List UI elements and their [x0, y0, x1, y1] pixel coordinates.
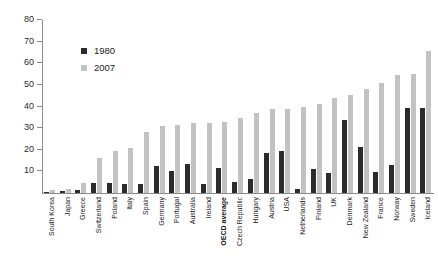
x-axis-label: Germany [158, 197, 166, 226]
bar-2007 [254, 113, 259, 193]
x-axis-label: Netherlands [299, 197, 307, 235]
bar-1980 [311, 169, 316, 193]
x-axis-label: Japan [64, 197, 72, 216]
x-axis-label: Spain [142, 197, 150, 215]
bar-2007 [411, 74, 416, 193]
bar-1980 [420, 108, 425, 193]
y-tick-label: 40 [24, 100, 34, 113]
bar-1980 [91, 183, 96, 193]
x-axis-label: USA [283, 197, 291, 211]
bar-2007 [332, 98, 337, 193]
bar-2007 [160, 126, 165, 193]
x-axis-label: Portugal [173, 197, 181, 223]
bar-chart: 1020304050607080 1980 2007 South KoreaJa… [0, 0, 438, 262]
y-tick-label: 60 [24, 56, 34, 69]
bar-2007 [270, 109, 275, 193]
x-axis-label: Greece [79, 197, 87, 220]
x-axis-label: OECD average [220, 197, 228, 246]
bar-2007 [191, 123, 196, 193]
bar-2007 [317, 104, 322, 193]
bar-1980 [248, 179, 253, 193]
y-tick-label: 50 [24, 78, 34, 91]
bar-1980 [295, 189, 300, 193]
bar-2007 [66, 189, 71, 193]
bar-1980 [405, 108, 410, 193]
x-axis-label: New Zealand [362, 197, 370, 238]
x-axis-label: Switzerland [95, 197, 103, 233]
bar-2007 [364, 89, 369, 193]
bar-1980 [326, 173, 331, 193]
bar-2007 [348, 95, 353, 193]
bar-2007 [426, 51, 431, 193]
bar-2007 [113, 151, 118, 193]
bar-2007 [285, 109, 290, 193]
bar-2007 [395, 75, 400, 193]
bar-2007 [301, 107, 306, 193]
x-axis-label: Poland [111, 197, 119, 219]
x-axis-label: Denmark [346, 197, 354, 225]
x-axis-label: Australia [189, 197, 197, 224]
bar-1980 [44, 192, 49, 193]
bar-2007 [97, 158, 102, 193]
x-axis-label: Czech Republic [236, 197, 244, 246]
x-axis-line [42, 193, 434, 194]
bar-1980 [264, 153, 269, 193]
bar-1980 [75, 190, 80, 193]
bar-1980 [373, 172, 378, 193]
bar-1980 [169, 171, 174, 193]
bar-1980 [279, 151, 284, 193]
bar-2007 [175, 125, 180, 193]
bar-2007 [207, 123, 212, 193]
bar-1980 [389, 165, 394, 193]
bar-1980 [122, 184, 127, 194]
x-axis-label: Norway [393, 197, 401, 221]
bar-2007 [379, 83, 384, 193]
bar-2007 [81, 183, 86, 193]
bar-1980 [342, 120, 347, 193]
x-axis-label: UK [330, 197, 338, 207]
bar-2007 [50, 190, 55, 193]
x-axis-label: Sweden [409, 197, 417, 222]
bar-1980 [358, 147, 363, 193]
bar-2007 [144, 132, 149, 193]
x-axis-label: Hungary [252, 197, 260, 223]
bar-1980 [185, 164, 190, 193]
bar-1980 [60, 191, 65, 193]
bar-1980 [107, 183, 112, 193]
bar-2007 [238, 118, 243, 193]
y-tick-label: 20 [24, 143, 34, 156]
x-axis-label: Austria [268, 197, 276, 219]
bar-2007 [222, 122, 227, 193]
y-tick-label: 80 [24, 13, 34, 26]
bar-1980 [138, 184, 143, 193]
y-tick-label: 70 [24, 35, 34, 48]
bar-1980 [232, 182, 237, 193]
bar-1980 [216, 168, 221, 193]
bar-1980 [154, 166, 159, 193]
bar-1980 [201, 184, 206, 193]
x-axis-label: Finland [315, 197, 323, 220]
x-axis-label: South Korea [48, 197, 56, 236]
y-tick-label: 30 [24, 121, 34, 134]
bar-2007 [128, 148, 133, 193]
x-axis-label: France [377, 197, 385, 219]
x-axis-label: Ireland [205, 197, 213, 218]
x-axis-label: Italy [126, 197, 134, 210]
plot-area [42, 20, 434, 193]
x-axis-label: Iceland [424, 197, 432, 220]
y-tick-label: 10 [24, 164, 34, 177]
